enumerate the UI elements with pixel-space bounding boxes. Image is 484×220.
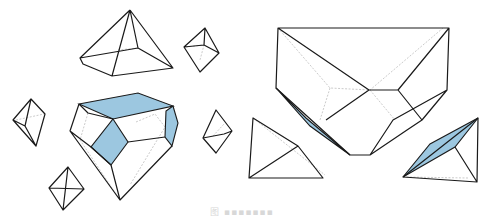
small-octahedron-right	[203, 110, 232, 153]
square-pyramid-top	[80, 10, 173, 76]
tetrahedron-bottom-right-highlighted	[403, 118, 478, 182]
central-polyhedron-highlighted	[70, 93, 178, 200]
crystal-diagram	[0, 0, 484, 220]
figure-caption: 图 ▪▪▪▪▪▪▪	[0, 205, 484, 218]
small-octahedron-left	[13, 99, 45, 146]
small-octahedron-bottom	[49, 167, 84, 210]
large-polyhedron-right	[276, 28, 449, 155]
small-octahedron-top-right	[184, 28, 219, 72]
